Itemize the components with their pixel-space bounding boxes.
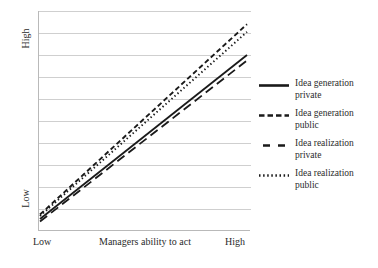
chart-legend: Idea generation private Idea generation … bbox=[258, 78, 378, 198]
series-line-idea-generation-public bbox=[40, 24, 247, 214]
x-axis-title: Managers ability to act bbox=[80, 236, 210, 247]
y-tick-label-low: Low bbox=[20, 169, 31, 229]
series-line-idea-realization-private bbox=[40, 61, 247, 222]
legend-swatch-long-dashed-icon bbox=[258, 139, 290, 152]
series-lines bbox=[38, 11, 250, 231]
legend-label: Idea realization private bbox=[295, 138, 354, 161]
chart-figure: Innovative work behavior High Low Low Ma… bbox=[0, 0, 378, 268]
legend-label: Idea generation public bbox=[295, 108, 354, 131]
y-tick-label-high: High bbox=[20, 9, 31, 69]
legend-item-idea-generation-private: Idea generation private bbox=[258, 78, 378, 101]
legend-swatch-dotted-icon bbox=[258, 169, 290, 182]
legend-item-idea-generation-public: Idea generation public bbox=[258, 108, 378, 131]
legend-label: Idea generation private bbox=[295, 78, 354, 101]
legend-swatch-dashed-icon bbox=[258, 109, 290, 122]
legend-item-idea-realization-public: Idea realization public bbox=[258, 168, 378, 191]
x-tick-label-high: High bbox=[225, 236, 245, 247]
x-tick-label-low: Low bbox=[33, 236, 51, 247]
legend-label: Idea realization public bbox=[295, 168, 354, 191]
series-line-idea-realization-public bbox=[40, 32, 247, 216]
legend-item-idea-realization-private: Idea realization private bbox=[258, 138, 378, 161]
legend-swatch-solid-icon bbox=[258, 79, 290, 92]
series-line-idea-generation-private bbox=[40, 55, 247, 219]
